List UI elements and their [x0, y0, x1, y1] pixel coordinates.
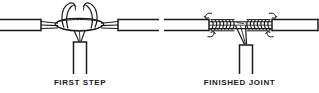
panel-finished-joint: [164, 13, 318, 74]
caption-first-step: FIRST STEP: [0, 78, 160, 88]
tap-wire-drop-finished: [239, 45, 253, 74]
tap-wire-drop: [73, 42, 87, 74]
caption-finished-joint: FINISHED JOINT: [160, 78, 319, 88]
wire-splice-figure: FIRST STEP FINISHED JOINT: [0, 0, 319, 93]
run-wire-left: [0, 19, 58, 31]
run-wire-right-finished: [272, 19, 318, 31]
tap-strand-converge: [236, 23, 247, 45]
crossed-conductor-loop: [55, 3, 104, 42]
run-wire-right: [101, 19, 159, 31]
panel-first-step: [0, 3, 159, 74]
run-wire-left-finished: [164, 19, 209, 31]
